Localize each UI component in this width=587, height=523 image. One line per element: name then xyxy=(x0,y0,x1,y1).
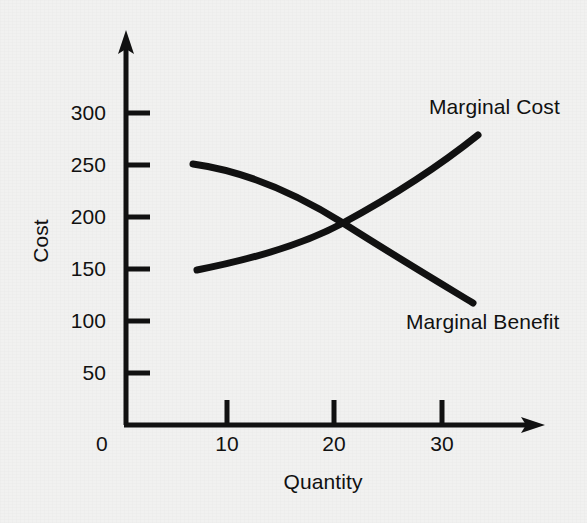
x-tick-label-0: 0 xyxy=(78,432,126,456)
y-tick-label-250: 250 xyxy=(38,153,106,177)
marginal-benefit-label: Marginal Benefit xyxy=(406,310,559,334)
y-tick-label-300: 300 xyxy=(38,101,106,125)
x-tick-label-10: 10 xyxy=(201,432,253,456)
y-axis-title: Cost xyxy=(29,206,53,276)
y-tick-label-100: 100 xyxy=(38,309,106,333)
marginal-cost-curve xyxy=(197,135,478,270)
marginal-cost-label: Marginal Cost xyxy=(429,95,560,119)
chart-figure: 300 250 200 150 100 50 0 10 20 30 Cost Q… xyxy=(0,0,587,523)
x-tick-label-30: 30 xyxy=(416,432,468,456)
x-axis-ticks xyxy=(227,400,442,423)
x-axis-title: Quantity xyxy=(253,470,393,494)
y-tick-label-50: 50 xyxy=(38,361,106,385)
y-axis-ticks xyxy=(128,113,150,373)
x-tick-label-20: 20 xyxy=(308,432,360,456)
marginal-benefit-curve xyxy=(193,164,473,303)
